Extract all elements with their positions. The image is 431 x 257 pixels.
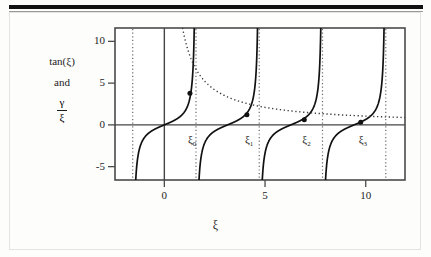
root-label-index-1: 1 — [250, 140, 254, 148]
intersection-dot-0 — [187, 91, 192, 96]
y-tick-label-1: 0 — [77, 118, 105, 130]
root-label-2: ξ2 — [302, 133, 310, 148]
x-tick-label-2: 10 — [352, 189, 380, 201]
root-label-1: ξ1 — [245, 133, 253, 148]
root-label-index-2: 2 — [307, 140, 311, 148]
root-label-3: ξ3 — [359, 133, 367, 148]
x-axis-label: ξ — [0, 218, 431, 233]
x-tick-label-0: 0 — [150, 189, 178, 201]
y-axis-label: tan(ξ) and γ ξ — [16, 55, 108, 123]
y-tick-label-3: 10 — [77, 34, 105, 46]
root-label-0: ξ0 — [188, 133, 196, 148]
root-label-index-0: 0 — [193, 140, 197, 148]
y-axis-label-line-1: tan(ξ) — [16, 55, 108, 67]
figure-container: tan(ξ) and γ ξ ξ 0510-50510 ξ0ξ1ξ2ξ3 — [0, 0, 431, 257]
plot-frame — [115, 28, 405, 180]
x-tick-label-1: 5 — [251, 189, 279, 201]
y-axis-label-fraction: γ ξ — [57, 97, 68, 123]
fraction-numerator: γ — [57, 97, 68, 109]
fraction-denominator: ξ — [57, 112, 68, 124]
intersection-dot-1 — [244, 112, 249, 117]
y-tick-label-0: -5 — [77, 160, 105, 172]
y-tick-label-2: 5 — [77, 76, 105, 88]
intersection-dot-2 — [302, 117, 307, 122]
intersection-dot-3 — [358, 120, 363, 125]
root-label-index-3: 3 — [364, 140, 368, 148]
